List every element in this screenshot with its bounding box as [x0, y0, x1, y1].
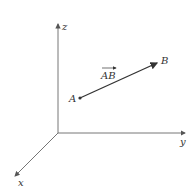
point-a-dot: [78, 96, 81, 99]
z-axis-label: z: [61, 21, 68, 32]
vector-diagram: z y x A B AB: [0, 0, 189, 191]
z-axis: z: [58, 21, 68, 133]
point-b-label: B: [160, 55, 168, 66]
vector-label: AB: [100, 70, 116, 81]
point-a-label: A: [68, 93, 76, 104]
y-axis: y: [58, 133, 186, 147]
y-axis-label: y: [179, 136, 186, 147]
vector-ab: A B AB: [68, 55, 168, 104]
x-axis-label: x: [18, 177, 24, 188]
x-axis: x: [15, 133, 58, 188]
